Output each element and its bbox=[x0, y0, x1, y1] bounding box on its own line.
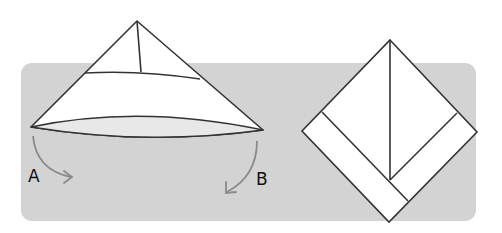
label-b: B bbox=[256, 169, 268, 189]
origami-diagram: A B bbox=[0, 0, 502, 233]
label-a: A bbox=[28, 166, 40, 186]
